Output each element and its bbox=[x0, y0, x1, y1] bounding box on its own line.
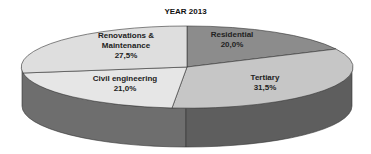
label-residential-name: Residential bbox=[200, 30, 264, 40]
label-residential-pct: 20,0% bbox=[200, 40, 264, 50]
label-tertiary: Tertiary 31,5% bbox=[230, 73, 300, 93]
label-tertiary-pct: 31,5% bbox=[230, 83, 300, 93]
label-civil-name: Civil engineering bbox=[80, 74, 170, 84]
label-renov-pct: 27,5% bbox=[86, 51, 166, 61]
label-renov-name-1: Renovations & bbox=[86, 31, 166, 41]
label-civil-pct: 21,0% bbox=[80, 84, 170, 94]
label-renov-name-2: Maintenance bbox=[86, 41, 166, 51]
label-residential: Residential 20,0% bbox=[200, 30, 264, 50]
label-civil-engineering: Civil engineering 21,0% bbox=[80, 74, 170, 94]
chart-title: YEAR 2013 bbox=[0, 7, 371, 16]
label-renovations-maintenance: Renovations & Maintenance 27,5% bbox=[86, 31, 166, 61]
pie-chart-3d bbox=[0, 0, 371, 154]
label-tertiary-name: Tertiary bbox=[230, 73, 300, 83]
